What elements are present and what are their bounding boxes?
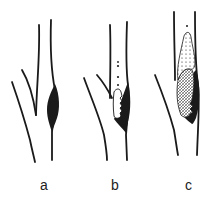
- branch-outer-wall: [155, 75, 178, 155]
- panel-a: [12, 20, 59, 162]
- panel-b: [84, 22, 130, 160]
- platelet-dot: [117, 84, 119, 86]
- vessel-thrombus-diagram: [0, 0, 213, 208]
- platelet-dot: [117, 65, 119, 67]
- thrombus-black: [47, 84, 59, 132]
- panel-label-b: b: [111, 178, 119, 192]
- panel-label-c: c: [185, 178, 192, 192]
- branch-outer-wall: [84, 78, 107, 160]
- branch-inner-wall: [22, 70, 36, 115]
- panel-label-a: a: [40, 178, 48, 192]
- platelet-dot: [117, 61, 119, 63]
- platelet-dot: [117, 76, 119, 78]
- vessel-left-wall: [174, 12, 175, 80]
- vessel-left-wall: [36, 25, 39, 115]
- panel-c: [155, 12, 199, 155]
- platelet-dot: [186, 25, 188, 27]
- thrombus-white-fringed: [113, 89, 122, 118]
